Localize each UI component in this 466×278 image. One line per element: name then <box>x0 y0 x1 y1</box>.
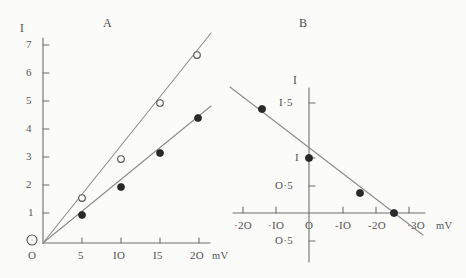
panel-b-x-unit: mV <box>436 220 452 231</box>
panel-a-xtick-15: I5 <box>153 249 163 261</box>
panel-a-ytick-5: 5 <box>26 94 32 106</box>
panel-b-ytick-1: I <box>295 151 299 163</box>
panel-a-xtick-10: IO <box>113 249 125 261</box>
panel-b-ytick-neg-0-5: O·5 <box>275 234 293 246</box>
panel-b-ytick-1-5: I·5 <box>279 96 293 108</box>
panel-b-xtick-minus-10: -IO <box>335 219 351 231</box>
panel-b-xtick-plus-20: ·2O <box>234 219 252 231</box>
panel-a-plot <box>0 0 233 278</box>
panel-a-ytick-4: 4 <box>26 122 32 134</box>
panel-b-xtick-plus-10: ·IO <box>268 219 284 231</box>
panel-b-x-ticks <box>243 207 409 213</box>
panel-a-y-ticks <box>43 45 49 213</box>
panel-a: A I <box>0 0 233 278</box>
figure-container: A I <box>0 0 466 278</box>
panel-a-xtick-20: 2O <box>190 249 204 261</box>
panel-a-x-ticks <box>82 238 199 243</box>
panel-a-ytick-7: 7 <box>26 38 32 50</box>
panel-a-ytick-1: 1 <box>28 206 34 218</box>
panel-b-xtick-minus-20: -2O <box>368 219 386 231</box>
panel-b-xtick-0: O <box>305 219 313 231</box>
panel-b-plot <box>233 0 466 278</box>
panel-a-x-unit: mV <box>212 250 228 261</box>
panel-a-xtick-5: 5 <box>78 249 84 261</box>
panel-a-fit-line-open <box>43 33 211 243</box>
panel-b-xtick-plus-30: ·3O <box>407 219 425 231</box>
panel-b: B I <box>233 0 466 278</box>
panel-a-origin-marker <box>27 235 37 245</box>
panel-b-ytick-0-5: O·5 <box>275 179 293 191</box>
panel-a-points-filled <box>79 115 202 219</box>
panel-a-xtick-0: O <box>28 249 36 261</box>
panel-a-ytick-6: 6 <box>26 66 32 78</box>
panel-a-fit-line-filled <box>43 106 211 243</box>
panel-a-points-open <box>79 52 201 202</box>
panel-a-ytick-3: 3 <box>26 150 32 162</box>
panel-a-ytick-2: 2 <box>26 178 32 190</box>
